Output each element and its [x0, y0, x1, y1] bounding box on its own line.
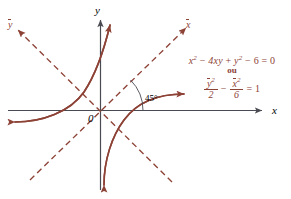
x-bar-exponent: 2	[237, 76, 241, 84]
y-bar-exponent: 2	[211, 76, 215, 84]
rotated-y-axis-asymptote	[18, 30, 172, 182]
rotated-x-axis-label: x	[186, 20, 190, 30]
rotated-x-axis-label-text: x	[186, 20, 190, 30]
rotated-y-axis-label-text: y	[8, 20, 12, 30]
equation-block: x2 − 4xy + y2 − 6 = 0 ou y2 2 − x2 6 = 1	[176, 54, 288, 101]
x-axis-label: x	[272, 105, 277, 116]
fraction-numerator-2: x2	[230, 77, 244, 89]
x-bar-base: x	[233, 79, 237, 90]
fraction-denominator-2: 6	[230, 89, 244, 101]
eq-minus-2: −	[245, 55, 251, 66]
equation-standard-form: y2 2 − x2 6 = 1	[176, 77, 288, 100]
y-axis-label: y	[95, 5, 100, 16]
eq-x-exponent: 2	[193, 54, 197, 62]
angle-label: 45°	[145, 94, 158, 103]
angle-arc	[131, 80, 144, 111]
equation-connector: ou	[176, 65, 288, 75]
fraction-numerator-1: y2	[204, 77, 218, 89]
eq-equals: =	[262, 55, 268, 66]
hyperbola-branch-lower	[104, 94, 184, 185]
origin-label: 0	[88, 113, 94, 124]
eq-minus-1: −	[200, 55, 206, 66]
eq-zero: 0	[270, 55, 275, 66]
equation-equals-sign: =	[246, 83, 252, 94]
equation-right-hand-side: 1	[255, 83, 260, 94]
fraction-operator: −	[221, 83, 227, 94]
eq-six: 6	[254, 55, 259, 66]
fraction-denominator-1: 2	[204, 89, 218, 101]
eq-y-exponent: 2	[239, 54, 243, 62]
y-bar-base: y	[207, 79, 211, 90]
rotated-y-axis-label: y	[8, 20, 12, 30]
hyperbola-figure: y x y x 0 45° x2 − 4xy + y2 − 6 = 0 ou y…	[0, 0, 291, 199]
eq-term-4xy: 4xy	[208, 55, 222, 66]
fraction-x-squared-over-6: x2 6	[230, 77, 244, 100]
fraction-y-squared-over-2: y2 2	[204, 77, 218, 100]
